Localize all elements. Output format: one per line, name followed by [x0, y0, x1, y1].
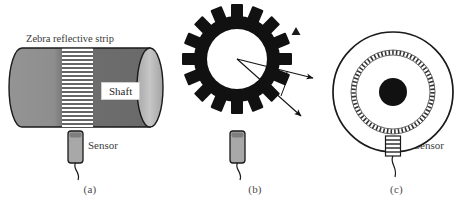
- panel-a-caption: (a): [0, 183, 180, 195]
- shaft-label: Shaft: [101, 82, 140, 100]
- panel-a-graphic: [0, 0, 180, 198]
- encoder-disc: [333, 32, 453, 152]
- disc-hub: [379, 78, 407, 106]
- sensor-label-a: Sensor: [88, 139, 118, 151]
- shaft-end-cap: [137, 48, 163, 127]
- zebra-strip-label: Zebra reflective strip: [26, 33, 114, 44]
- panel-c: Sensor (c): [325, 0, 468, 198]
- panel-b-caption: (b): [175, 183, 335, 195]
- sensor-c-lead-wire: [392, 156, 396, 177]
- panel-b-graphic: [175, 0, 335, 198]
- sensor-b: [230, 131, 245, 180]
- sensor-a: [68, 131, 83, 180]
- triangle-marker: [292, 27, 301, 35]
- zebra-reflective-band: [62, 48, 93, 127]
- panel-a: Zebra reflective strip Shaft Sensor (a): [0, 0, 180, 198]
- panel-c-caption: (c): [325, 183, 468, 195]
- sensor-b-lead-wire: [237, 163, 241, 180]
- sensor-a-lead-wire: [75, 163, 79, 180]
- sensor-c: [386, 136, 401, 177]
- figure-container: Zebra reflective strip Shaft Sensor (a): [0, 0, 468, 198]
- panel-c-graphic: [325, 0, 468, 198]
- panel-b: Δθ Sensor (b): [175, 0, 335, 198]
